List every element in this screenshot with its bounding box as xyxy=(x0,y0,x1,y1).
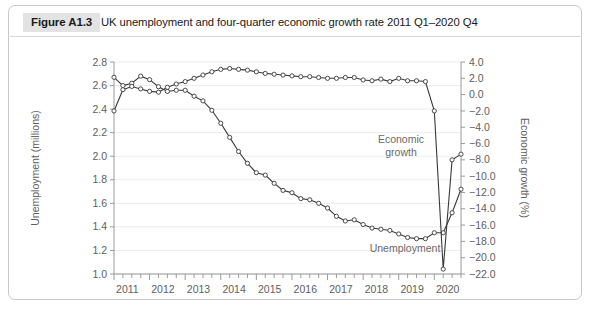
data-point xyxy=(317,75,321,79)
data-point xyxy=(388,228,392,232)
svg-text:2.8: 2.8 xyxy=(92,56,107,68)
data-point xyxy=(414,237,418,241)
data-point xyxy=(183,79,187,83)
data-point xyxy=(432,109,436,113)
line-chart: 1.01.21.41.61.82.02.22.42.62.8−22.0−20.0… xyxy=(9,37,583,300)
data-point xyxy=(228,135,232,139)
svg-text:2020: 2020 xyxy=(436,283,460,295)
svg-text:2019: 2019 xyxy=(400,283,424,295)
annotation-economic-growth-line2: growth xyxy=(385,146,417,158)
data-point xyxy=(299,197,303,201)
data-point xyxy=(219,121,223,125)
data-point xyxy=(121,83,125,87)
svg-text:1.6: 1.6 xyxy=(92,197,107,209)
figure-card: Figure A1.3 UK unemployment and four-qua… xyxy=(8,5,582,300)
svg-text:−2.0: −2.0 xyxy=(469,105,490,117)
data-point xyxy=(165,85,169,89)
annotation-unemployment: Unemployment xyxy=(370,242,441,254)
data-point xyxy=(263,71,267,75)
data-point xyxy=(450,158,454,162)
data-point xyxy=(432,231,436,235)
data-point xyxy=(121,88,125,92)
data-point xyxy=(397,76,401,80)
data-point xyxy=(281,188,285,192)
data-point xyxy=(317,201,321,205)
svg-text:1.2: 1.2 xyxy=(92,244,107,256)
data-point xyxy=(263,173,267,177)
data-point xyxy=(236,149,240,153)
data-point xyxy=(210,108,214,112)
svg-text:0.0: 0.0 xyxy=(469,88,484,100)
svg-text:2014: 2014 xyxy=(222,283,246,295)
data-point xyxy=(352,218,356,222)
svg-text:2012: 2012 xyxy=(151,283,175,295)
svg-text:−10.0: −10.0 xyxy=(469,170,496,182)
data-point xyxy=(406,235,410,239)
svg-text:2.6: 2.6 xyxy=(92,79,107,91)
svg-text:−14.0: −14.0 xyxy=(469,202,496,214)
data-point xyxy=(343,219,347,223)
data-point xyxy=(308,75,312,79)
data-point xyxy=(379,227,383,231)
data-point xyxy=(459,187,463,191)
svg-text:1.4: 1.4 xyxy=(92,220,107,232)
data-point xyxy=(272,181,276,185)
data-point xyxy=(192,94,196,98)
svg-text:4.0: 4.0 xyxy=(469,56,484,68)
data-point xyxy=(139,74,143,78)
data-point xyxy=(290,191,294,195)
svg-text:2013: 2013 xyxy=(187,283,211,295)
svg-text:2.4: 2.4 xyxy=(92,103,107,115)
data-point xyxy=(370,226,374,230)
data-point xyxy=(281,73,285,77)
svg-text:−18.0: −18.0 xyxy=(469,235,496,247)
data-point xyxy=(423,237,427,241)
svg-text:1.8: 1.8 xyxy=(92,173,107,185)
figure-number-badge: Figure A1.3 xyxy=(23,13,100,32)
data-point xyxy=(183,88,187,92)
data-point xyxy=(343,75,347,79)
svg-text:2018: 2018 xyxy=(365,283,389,295)
data-point xyxy=(299,75,303,79)
data-point xyxy=(397,232,401,236)
svg-text:1.0: 1.0 xyxy=(92,268,107,280)
y-axis-left-title: Unemployment (millions) xyxy=(29,110,41,226)
data-point xyxy=(165,89,169,93)
data-point xyxy=(325,206,329,210)
data-point xyxy=(325,76,329,80)
data-point xyxy=(245,68,249,72)
svg-text:−20.0: −20.0 xyxy=(469,251,496,263)
data-point xyxy=(228,66,232,70)
data-point xyxy=(156,90,160,94)
svg-text:2015: 2015 xyxy=(258,283,282,295)
data-point xyxy=(147,89,151,93)
data-point xyxy=(388,79,392,83)
data-point xyxy=(450,211,454,215)
data-point xyxy=(156,85,160,89)
data-point xyxy=(290,74,294,78)
data-point xyxy=(210,70,214,74)
data-point xyxy=(147,78,151,82)
svg-text:−16.0: −16.0 xyxy=(469,219,496,231)
data-point xyxy=(361,78,365,82)
svg-text:−12.0: −12.0 xyxy=(469,186,496,198)
svg-text:2011: 2011 xyxy=(116,283,139,295)
svg-text:−6.0: −6.0 xyxy=(469,137,490,149)
data-point xyxy=(112,109,116,113)
figure-caption-row: Figure A1.3 UK unemployment and four-qua… xyxy=(9,6,581,36)
data-point xyxy=(459,152,463,156)
svg-text:2.0: 2.0 xyxy=(469,72,484,84)
data-point xyxy=(423,79,427,83)
data-point xyxy=(174,82,178,86)
chart-plot-area: 1.01.21.41.61.82.02.22.42.62.8−22.0−20.0… xyxy=(9,37,583,300)
svg-text:2017: 2017 xyxy=(329,283,353,295)
data-point xyxy=(272,72,276,76)
data-point xyxy=(139,87,143,91)
data-point xyxy=(441,267,445,271)
y-axis-right-title: Economic growth (%) xyxy=(519,118,531,218)
data-point xyxy=(361,222,365,226)
data-point xyxy=(201,99,205,103)
figure-title: UK unemployment and four-quarter economi… xyxy=(101,16,478,28)
data-point xyxy=(112,75,116,79)
data-point xyxy=(334,76,338,80)
